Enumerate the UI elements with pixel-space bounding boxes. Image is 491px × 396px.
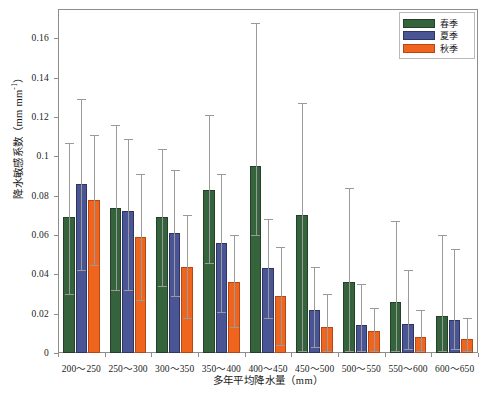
error-bar-cap-bottom bbox=[323, 351, 332, 352]
error-bar-cap-bottom bbox=[311, 347, 320, 348]
error-bar-cap-top bbox=[276, 247, 285, 248]
error-bar-cap-bottom bbox=[264, 318, 273, 319]
bar-group bbox=[151, 9, 198, 353]
error-bar-line bbox=[281, 247, 282, 345]
error-bar-cap-bottom bbox=[77, 270, 86, 271]
x-tick-mark bbox=[478, 353, 479, 357]
legend-label: 夏季 bbox=[440, 29, 459, 42]
error-bar-cap-bottom bbox=[298, 351, 307, 352]
error-bar-line bbox=[396, 221, 397, 351]
error-bar-cap-bottom bbox=[230, 327, 239, 328]
legend-swatch bbox=[403, 31, 435, 40]
error-bar-cap-bottom bbox=[345, 351, 354, 352]
error-bar-cap-top bbox=[357, 284, 366, 285]
x-tick-mark bbox=[431, 353, 432, 357]
error-bar-line bbox=[81, 99, 82, 270]
error-bar-line bbox=[374, 308, 375, 351]
legend-item: 夏季 bbox=[403, 30, 470, 41]
error-bar-line bbox=[116, 125, 117, 290]
error-bar-cap-top bbox=[205, 115, 214, 116]
error-bar-cap-bottom bbox=[217, 312, 226, 313]
error-bar-line bbox=[94, 135, 95, 265]
bar-group bbox=[198, 9, 245, 353]
legend: 春季夏季秋季 bbox=[399, 12, 475, 59]
error-bar-cap-top bbox=[391, 221, 400, 222]
legend-label: 秋季 bbox=[440, 42, 459, 55]
legend-label: 春季 bbox=[440, 17, 459, 30]
bar-group bbox=[385, 9, 432, 353]
error-bar-line bbox=[408, 270, 409, 349]
error-bar-cap-bottom bbox=[404, 349, 413, 350]
error-bar-line bbox=[187, 215, 188, 317]
error-bar-cap-bottom bbox=[171, 296, 180, 297]
error-bar-line bbox=[361, 284, 362, 351]
error-bar-cap-bottom bbox=[357, 351, 366, 352]
x-tick-mark bbox=[198, 353, 199, 357]
y-tick-label: 0 bbox=[44, 348, 49, 358]
error-bar-line bbox=[174, 170, 175, 296]
x-tick-mark bbox=[385, 353, 386, 357]
bar-group bbox=[245, 9, 292, 353]
error-bar-cap-top bbox=[438, 235, 447, 236]
error-bar-line bbox=[141, 174, 142, 300]
error-bar-line bbox=[209, 115, 210, 262]
error-bar-cap-bottom bbox=[438, 351, 447, 352]
error-bar-cap-bottom bbox=[124, 290, 133, 291]
error-bar-line bbox=[256, 23, 257, 235]
error-bar-line bbox=[302, 103, 303, 351]
y-tick-label: 0.04 bbox=[32, 269, 49, 279]
plot-area bbox=[58, 9, 478, 353]
error-bar-line bbox=[421, 310, 422, 351]
legend-swatch bbox=[403, 19, 435, 28]
precipitation-sensitivity-bar-chart: 降水敏感系数（mm mm-1） 00.020.040.060.080.10.12… bbox=[0, 0, 491, 396]
error-bar-line bbox=[221, 174, 222, 312]
x-tick-mark bbox=[58, 353, 59, 357]
legend-item: 春季 bbox=[403, 18, 470, 29]
error-bar-line bbox=[128, 139, 129, 290]
error-bar-cap-bottom bbox=[370, 351, 379, 352]
x-tick-mark bbox=[245, 353, 246, 357]
error-bar-line bbox=[327, 294, 328, 351]
bar-group bbox=[431, 9, 478, 353]
error-bar-cap-top bbox=[90, 135, 99, 136]
error-bar-cap-bottom bbox=[451, 349, 460, 350]
error-bar-cap-top bbox=[370, 308, 379, 309]
error-bar-cap-top bbox=[136, 174, 145, 175]
legend-swatch bbox=[403, 44, 435, 53]
error-bar-cap-bottom bbox=[158, 286, 167, 287]
error-bar-cap-top bbox=[158, 149, 167, 150]
error-bar-cap-bottom bbox=[136, 300, 145, 301]
x-axis-label: 多年平均降水量（mm） bbox=[58, 372, 478, 387]
error-bar-cap-top bbox=[264, 219, 273, 220]
error-bar-cap-top bbox=[77, 99, 86, 100]
error-bar-cap-top bbox=[451, 249, 460, 250]
error-bar-cap-bottom bbox=[65, 294, 74, 295]
error-bar-cap-top bbox=[65, 143, 74, 144]
error-bar-cap-top bbox=[311, 267, 320, 268]
error-bar-cap-bottom bbox=[416, 351, 425, 352]
error-bar-cap-bottom bbox=[111, 290, 120, 291]
error-bar-line bbox=[234, 235, 235, 327]
x-tick-mark bbox=[338, 353, 339, 357]
error-bar-cap-top bbox=[404, 270, 413, 271]
error-bar-cap-top bbox=[345, 188, 354, 189]
error-bar-line bbox=[69, 143, 70, 294]
bar-group bbox=[338, 9, 385, 353]
bar-group bbox=[58, 9, 105, 353]
error-bar-cap-top bbox=[251, 23, 260, 24]
y-tick-label: 0.14 bbox=[32, 73, 49, 83]
error-bar-cap-bottom bbox=[205, 263, 214, 264]
y-tick-label: 0.06 bbox=[32, 230, 49, 240]
bar-group bbox=[291, 9, 338, 353]
legend-item: 秋季 bbox=[403, 43, 470, 54]
x-tick-mark bbox=[105, 353, 106, 357]
y-tick-label: 0.08 bbox=[32, 191, 49, 201]
x-tick-mark bbox=[291, 353, 292, 357]
error-bar-cap-top bbox=[124, 139, 133, 140]
error-bar-cap-bottom bbox=[183, 318, 192, 319]
error-bar-cap-bottom bbox=[251, 235, 260, 236]
error-bar-line bbox=[314, 267, 315, 348]
x-tick-mark bbox=[151, 353, 152, 357]
error-bar-cap-top bbox=[416, 310, 425, 311]
error-bar-cap-top bbox=[217, 174, 226, 175]
